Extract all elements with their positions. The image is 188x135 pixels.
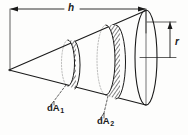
cone-diagram-svg [0,0,188,135]
cone-slant-lower [9,70,146,105]
area-label-da2-base: dA [97,115,110,126]
area-label-da1: dA1 [47,103,64,113]
area-label-da2-subscript: 2 [110,120,114,127]
area-label-da1-subscript: 1 [60,107,64,114]
area-label-da1-base: dA [47,102,60,113]
dimension-label-r: r [175,37,179,47]
cone-diagram-figure: h r dA1 dA2 [0,0,188,135]
arrowhead-h-left [10,6,18,11]
dimension-label-h: h [68,3,74,13]
area-label-da2: dA2 [97,116,114,126]
area-band-2 [97,25,125,119]
cone-body [9,10,157,105]
leader-line-da1 [54,85,66,101]
band-2-arc-far [97,25,106,95]
leader-line-da2 [104,96,108,113]
dimension-r [140,22,176,58]
arrowhead-r-top [168,22,173,29]
